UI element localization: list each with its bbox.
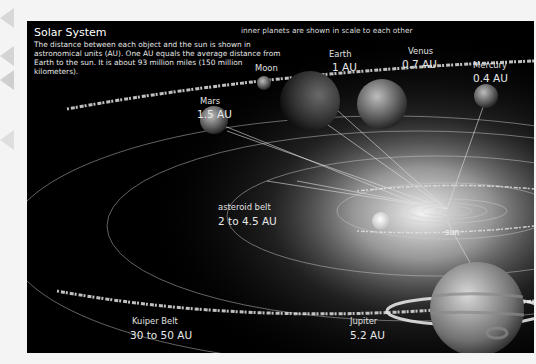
solar-system-diagram: Solar System The distance between each o… bbox=[27, 21, 534, 353]
diagram-title: Solar System bbox=[34, 27, 107, 38]
jupiter-label: Jupiter bbox=[350, 317, 377, 325]
scale-note: inner planets are shown in scale to each… bbox=[241, 27, 413, 34]
diagram-description: The distance between each object and the… bbox=[34, 40, 284, 76]
arrow-icon bbox=[0, 8, 14, 28]
earth-distance: 1 AU bbox=[332, 62, 357, 73]
jupiter-body bbox=[430, 262, 524, 353]
arrow-icon bbox=[0, 130, 14, 150]
moon-label: Moon bbox=[255, 64, 278, 72]
jupiter-distance: 5.2 AU bbox=[350, 330, 385, 341]
venus-distance: 0.7 AU bbox=[402, 59, 437, 70]
asteroid-belt-distance: 2 to 4.5 AU bbox=[218, 216, 277, 227]
kuiper-belt-distance: 30 to 50 AU bbox=[130, 330, 192, 341]
earth-label: Earth bbox=[329, 50, 351, 58]
arrow-icon bbox=[0, 70, 14, 90]
venus-body bbox=[357, 79, 407, 129]
page-side-arrows bbox=[0, 0, 27, 364]
venus-label: Venus bbox=[408, 47, 433, 55]
mercury-label: Mercury bbox=[473, 61, 507, 69]
arrow-icon bbox=[0, 46, 14, 66]
mars-label: Mars bbox=[200, 97, 220, 105]
mars-distance: 1.5 AU bbox=[197, 109, 232, 120]
moon-body bbox=[257, 76, 271, 90]
kuiper-belt-label: Kuiper Belt bbox=[132, 317, 178, 325]
mercury-body bbox=[474, 84, 498, 108]
sun-label: sun bbox=[445, 229, 459, 237]
earth-body bbox=[280, 71, 340, 131]
mercury-distance: 0.4 AU bbox=[473, 73, 508, 84]
sun-body bbox=[372, 212, 390, 230]
asteroid-belt-label: asteroid belt bbox=[218, 203, 271, 211]
